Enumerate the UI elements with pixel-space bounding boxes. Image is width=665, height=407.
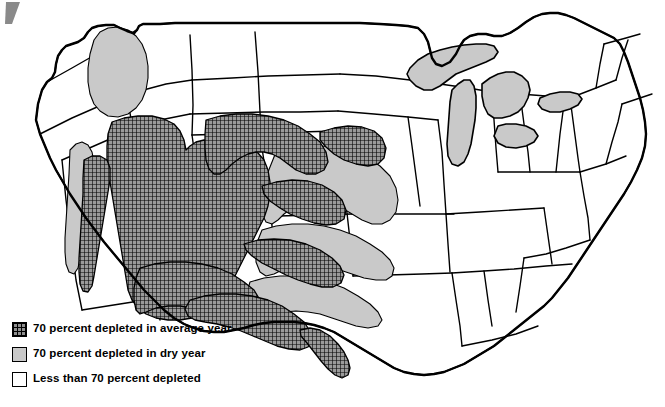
crosshatch-swatch-icon (12, 322, 27, 337)
corner-wedge-artifact (5, 2, 20, 24)
legend-item-average-year: 70 percent depleted in average year (12, 318, 312, 340)
legend-label-less-than-70: Less than 70 percent depleted (33, 373, 201, 385)
map-legend: 70 percent depleted in average year 70 p… (12, 318, 312, 393)
legend-item-less-than-70: Less than 70 percent depleted (12, 368, 312, 390)
map-figure: 70 percent depleted in average year 70 p… (0, 0, 665, 407)
legend-label-average-year: 70 percent depleted in average year (33, 323, 231, 335)
dry-region-snake-river-plain (88, 27, 148, 117)
gray-swatch-icon (12, 347, 27, 362)
legend-label-dry-year: 70 percent depleted in dry year (33, 348, 205, 360)
legend-item-dry-year: 70 percent depleted in dry year (12, 343, 312, 365)
white-swatch-icon (12, 372, 27, 387)
